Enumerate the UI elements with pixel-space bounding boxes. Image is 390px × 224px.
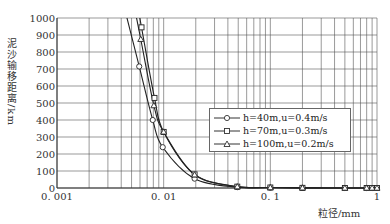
data-point-marker <box>152 95 157 100</box>
svg-text:0. 001: 0. 001 <box>41 191 73 202</box>
svg-text:0. 01: 0. 01 <box>151 191 176 202</box>
svg-text:600: 600 <box>36 81 55 92</box>
legend-item-h40: h=40m,u=0.4m/s <box>214 111 346 124</box>
svg-text:900: 900 <box>36 30 55 41</box>
legend-label: h=40m,u=0.4m/s <box>243 112 327 123</box>
grid-lines <box>57 18 377 188</box>
data-point-marker <box>160 145 165 150</box>
svg-text:1000: 1000 <box>30 13 55 24</box>
x-axis-label: 粒径/mm <box>318 205 360 220</box>
y-axis-label: 泥沙输移距离/km <box>2 22 20 142</box>
legend-label: h=70m,u=0.3m/s <box>243 125 327 136</box>
data-point-marker <box>150 117 155 122</box>
data-series <box>124 8 380 191</box>
svg-text:100: 100 <box>36 166 55 177</box>
svg-text:1: 1 <box>374 191 380 202</box>
square-marker-icon <box>214 126 240 136</box>
svg-text:200: 200 <box>36 149 55 160</box>
svg-text:700: 700 <box>36 64 55 75</box>
legend-item-h70: h=70m,u=0.3m/s <box>214 124 346 137</box>
svg-text:800: 800 <box>36 47 55 58</box>
svg-text:0. 1: 0. 1 <box>261 191 280 202</box>
data-point-marker <box>137 64 142 69</box>
triangle-marker-icon <box>214 139 240 149</box>
circle-marker-icon <box>214 113 240 123</box>
legend-label: h=100m,u=0.2m/s <box>243 138 334 149</box>
legend: h=40m,u=0.4m/s h=70m,u=0.3m/s h=100m,u=0… <box>209 108 351 152</box>
svg-text:300: 300 <box>36 132 55 143</box>
legend-item-h100: h=100m,u=0.2m/s <box>214 137 346 150</box>
svg-text:500: 500 <box>36 98 55 109</box>
data-point-marker <box>139 25 144 30</box>
svg-text:400: 400 <box>36 115 55 126</box>
